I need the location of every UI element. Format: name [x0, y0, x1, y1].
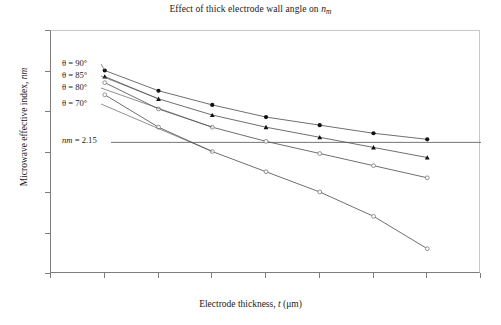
y-axis-label: Microwave effective index, nm	[19, 17, 29, 237]
y-tick-mark	[45, 192, 50, 193]
series-0-marker	[318, 123, 322, 127]
chart-title: Effect of thick electrode wall angle on …	[0, 4, 501, 16]
series-0-marker	[425, 137, 429, 141]
y-tick-mark	[45, 111, 50, 112]
y-axis-label-text: Microwave effective index,	[19, 79, 29, 186]
series-annotation-2: θ = 80°	[62, 82, 87, 92]
reference-label-value: = 2.15	[73, 135, 97, 145]
series-2-marker	[103, 81, 107, 85]
series-2-marker	[425, 176, 429, 180]
y-tick-mark	[45, 71, 50, 72]
series-0-marker	[371, 131, 375, 135]
series-2-marker	[372, 164, 376, 168]
x-tick-mark	[211, 273, 212, 278]
series-3-marker	[264, 170, 268, 174]
series-0-marker	[210, 103, 214, 107]
reference-line-label: nm = 2.15	[62, 135, 97, 145]
chart-title-text: Effect of thick electrode wall angle on	[169, 4, 321, 14]
chart-title-subscript: m	[326, 7, 332, 16]
x-axis-label-unit: (μm)	[281, 299, 302, 309]
series-3-marker	[372, 214, 376, 218]
x-tick-mark	[158, 273, 159, 278]
x-axis-label: Electrode thickness, t (μm)	[0, 299, 501, 309]
series-3-marker	[318, 190, 322, 194]
x-tick-mark	[373, 273, 374, 278]
x-tick-mark	[480, 273, 481, 278]
x-axis-label-text: Electrode thickness,	[199, 299, 278, 309]
series-2-marker	[318, 152, 322, 156]
series-leader-line-3	[101, 104, 212, 151]
chart-figure: Effect of thick electrode wall angle on …	[0, 0, 501, 325]
x-tick-mark	[265, 273, 266, 278]
series-annotation-1: θ = 85°	[62, 70, 87, 80]
series-leader-line-0	[101, 64, 105, 70]
series-3-marker	[425, 247, 429, 251]
x-tick-mark	[50, 273, 51, 278]
series-3-marker	[103, 93, 107, 97]
plot-area	[50, 30, 480, 273]
y-tick-mark	[45, 30, 50, 31]
series-2-marker	[264, 139, 268, 143]
series-0-marker	[156, 89, 160, 93]
series-0-marker	[264, 115, 268, 119]
y-axis-label-subscript: m	[19, 68, 29, 75]
x-tick-mark	[319, 273, 320, 278]
y-axis-label-variable: n	[19, 75, 29, 80]
series-annotation-0: θ = 90°	[62, 58, 87, 68]
x-tick-mark	[104, 273, 105, 278]
series-leader-line-2	[101, 88, 212, 127]
y-tick-mark	[45, 233, 50, 234]
x-tick-mark	[426, 273, 427, 278]
series-0-marker	[103, 68, 107, 72]
plot-canvas	[51, 31, 481, 274]
y-tick-mark	[45, 152, 50, 153]
series-annotation-3: θ = 70°	[62, 98, 87, 108]
